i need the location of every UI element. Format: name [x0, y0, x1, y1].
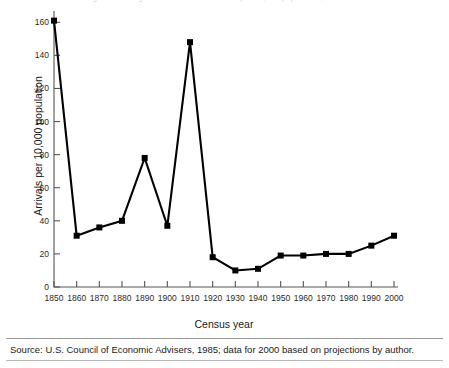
- x-tick-label: 2000: [385, 293, 404, 303]
- data-point-marker: [323, 251, 329, 257]
- data-point-marker: [51, 18, 57, 24]
- data-point-marker: [96, 224, 102, 230]
- y-tick-label: 60: [40, 183, 50, 193]
- figure-container: Figure 1. Immigration to the United Stat…: [0, 0, 449, 368]
- y-tick-label: 160: [35, 17, 49, 27]
- data-point-marker: [210, 254, 216, 260]
- x-tick-label: 1950: [271, 293, 290, 303]
- x-tick-label: 1940: [249, 293, 268, 303]
- x-tick-label: 1860: [67, 293, 86, 303]
- axis-spines: [54, 11, 398, 287]
- data-point-marker: [74, 233, 80, 239]
- y-tick-label: 80: [40, 150, 50, 160]
- x-tick-label: 1890: [135, 293, 154, 303]
- x-tick-label: 1910: [181, 293, 200, 303]
- source-note: Source: U.S. Council of Economic Adviser…: [10, 344, 442, 355]
- x-tick-label: 1880: [113, 293, 132, 303]
- x-tick-label: 1900: [158, 293, 177, 303]
- data-point-marker: [232, 267, 238, 273]
- y-tick-label: 0: [44, 282, 49, 292]
- data-point-marker: [346, 251, 352, 257]
- x-tick-label: 1990: [362, 293, 381, 303]
- line-chart: 0204060801001201401601850186018701880189…: [0, 0, 449, 336]
- data-point-marker: [187, 39, 193, 45]
- x-tick-label: 1870: [90, 293, 109, 303]
- plot-area: 0204060801001201401601850186018701880189…: [0, 0, 449, 336]
- x-tick-label: 1850: [45, 293, 64, 303]
- y-tick-label: 120: [35, 83, 49, 93]
- x-axis-label: Census year: [54, 318, 394, 330]
- y-tick-label: 20: [40, 249, 50, 259]
- x-tick-label: 1920: [203, 293, 222, 303]
- data-point-marker: [142, 155, 148, 161]
- source-divider-top: [6, 338, 443, 339]
- x-tick-label: 1970: [317, 293, 336, 303]
- x-tick-label: 1980: [339, 293, 358, 303]
- x-tick-label: 1960: [294, 293, 313, 303]
- data-point-marker: [255, 266, 261, 272]
- data-point-marker: [164, 223, 170, 229]
- y-tick-label: 40: [40, 216, 50, 226]
- x-tick-label: 1930: [226, 293, 245, 303]
- y-tick-label: 140: [35, 50, 49, 60]
- data-series: [51, 18, 397, 274]
- data-point-marker: [278, 253, 284, 259]
- source-divider-bottom: [6, 360, 443, 361]
- data-point-marker: [119, 218, 125, 224]
- data-point-marker: [391, 233, 397, 239]
- data-point-marker: [368, 243, 374, 249]
- series-line: [54, 21, 394, 271]
- data-point-marker: [300, 253, 306, 259]
- axes: 0204060801001201401601850186018701880189…: [35, 11, 404, 303]
- y-tick-label: 100: [35, 117, 49, 127]
